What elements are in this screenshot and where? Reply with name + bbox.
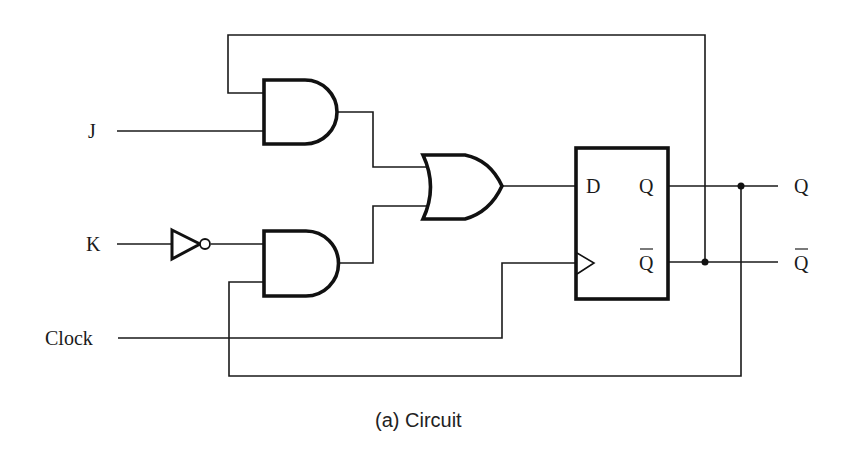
or-gate bbox=[423, 155, 502, 219]
and-gate-k bbox=[264, 231, 339, 296]
figure-caption: (a) Circuit bbox=[375, 409, 462, 431]
label-clock: Clock bbox=[45, 327, 93, 349]
wire-and1-or bbox=[337, 112, 427, 167]
ff-label-qbar: Q bbox=[639, 252, 654, 274]
output-label-q: Q bbox=[794, 175, 809, 197]
d-flipflop bbox=[576, 148, 668, 299]
jk-flipflop-circuit: J K Clock D Q Q Q Q (a) Circuit bbox=[0, 0, 855, 457]
ff-label-q: Q bbox=[639, 175, 654, 197]
junction-qbar bbox=[702, 259, 709, 266]
label-k: K bbox=[86, 233, 101, 255]
wire-and2-or bbox=[338, 206, 427, 263]
wire-clock bbox=[118, 263, 576, 338]
not-bubble bbox=[200, 239, 210, 249]
output-label-qbar: Q bbox=[794, 252, 809, 274]
not-gate bbox=[172, 230, 200, 259]
ff-label-d: D bbox=[586, 175, 600, 197]
and-gate-j bbox=[264, 80, 337, 144]
label-j: J bbox=[88, 120, 96, 142]
junction-q bbox=[738, 183, 745, 190]
